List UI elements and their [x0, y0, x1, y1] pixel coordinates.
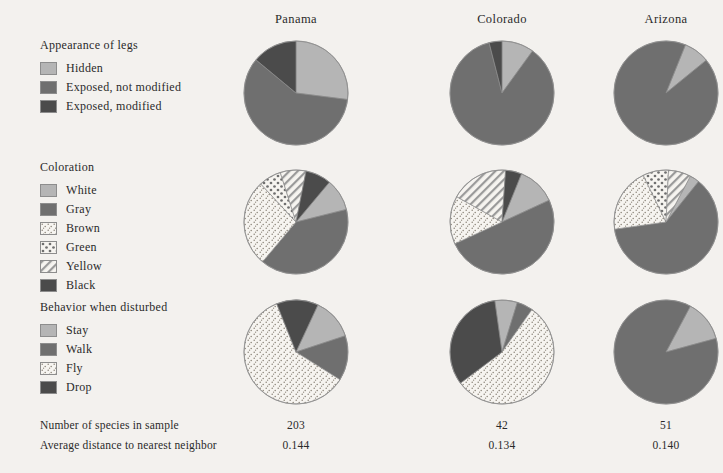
stat-value-panama: 0.144 [236, 439, 356, 451]
legend-item-green[interactable]: Green [40, 238, 102, 257]
legend-title: Appearance of legs [40, 38, 181, 53]
legend-item-label: White [66, 183, 97, 198]
stat-value-colorado: 0.134 [442, 439, 562, 451]
stat-row: Number of species in sample 203 42 51 [40, 419, 680, 439]
summary-stats: Number of species in sample 203 42 51 Av… [40, 419, 680, 459]
legend-item-brown[interactable]: Brown [40, 219, 102, 238]
legend-behavior-when-disturbed: Behavior when disturbedStayWalkFlyDrop [40, 300, 168, 397]
pie-chart-colorado-appearance-of-legs [447, 38, 557, 148]
legend-item-label: Exposed, not modified [66, 80, 181, 95]
stat-value-arizona: 51 [606, 419, 723, 431]
stat-label-avg-distance: Average distance to nearest neighbor [40, 439, 217, 451]
column-header-arizona: Arizona [586, 12, 723, 27]
legend-item-exposed-modified[interactable]: Exposed, modified [40, 97, 181, 116]
legend-item-label: Exposed, modified [66, 99, 162, 114]
legend-item-label: Black [66, 278, 96, 293]
pie-chart-panama-behavior-when-disturbed [241, 297, 351, 407]
pie-chart-colorado-coloration [447, 167, 557, 277]
legend-item-label: Green [66, 240, 97, 255]
legend-swatch-icon [40, 222, 57, 235]
legend-item-label: Hidden [66, 61, 103, 76]
pie-chart-arizona-appearance-of-legs [611, 38, 721, 148]
legend-item-black[interactable]: Black [40, 276, 102, 295]
legend-item-drop[interactable]: Drop [40, 378, 168, 397]
stat-value-colorado: 42 [442, 419, 562, 431]
legend-swatch-icon [40, 324, 57, 337]
column-header-colorado: Colorado [422, 12, 582, 27]
legend-item-fly[interactable]: Fly [40, 359, 168, 378]
legend-item-label: Stay [66, 323, 89, 338]
pie-chart-colorado-behavior-when-disturbed [447, 297, 557, 407]
pie-slice-hidden [296, 41, 348, 100]
legend-item-label: Drop [66, 380, 92, 395]
legend-swatch-icon [40, 184, 57, 197]
legend-swatch-icon [40, 241, 57, 254]
legend-swatch-icon [40, 81, 57, 94]
pie-chart-panama-appearance-of-legs [241, 38, 351, 148]
legend-appearance-of-legs: Appearance of legsHiddenExposed, not mod… [40, 38, 181, 116]
legend-coloration: ColorationWhiteGrayBrownGreenYellowBlack [40, 160, 102, 295]
legend-swatch-icon [40, 381, 57, 394]
legend-swatch-icon [40, 62, 57, 75]
stat-value-panama: 203 [236, 419, 356, 431]
legend-title: Coloration [40, 160, 102, 175]
legend-item-white[interactable]: White [40, 181, 102, 200]
stat-row: Average distance to nearest neighbor 0.1… [40, 439, 680, 459]
legend-item-yellow[interactable]: Yellow [40, 257, 102, 276]
legend-item-hidden[interactable]: Hidden [40, 59, 181, 78]
column-header-panama: Panama [216, 12, 376, 27]
pie-chart-panama-coloration [241, 167, 351, 277]
legend-item-gray[interactable]: Gray [40, 200, 102, 219]
legend-swatch-icon [40, 279, 57, 292]
legend-swatch-icon [40, 343, 57, 356]
legend-swatch-icon [40, 203, 57, 216]
pie-chart-arizona-behavior-when-disturbed [611, 297, 721, 407]
pie-chart-arizona-coloration [611, 167, 721, 277]
legend-item-walk[interactable]: Walk [40, 340, 168, 359]
legend-title: Behavior when disturbed [40, 300, 168, 315]
stat-value-arizona: 0.140 [606, 439, 723, 451]
legend-item-label: Yellow [66, 259, 102, 274]
legend-item-stay[interactable]: Stay [40, 321, 168, 340]
legend-swatch-icon [40, 100, 57, 113]
legend-swatch-icon [40, 362, 57, 375]
legend-item-label: Walk [66, 342, 92, 357]
legend-item-label: Fly [66, 361, 83, 376]
stat-label-species-count: Number of species in sample [40, 419, 179, 431]
legend-item-exposed-not-modified[interactable]: Exposed, not modified [40, 78, 181, 97]
legend-swatch-icon [40, 260, 57, 273]
legend-item-label: Gray [66, 202, 91, 217]
legend-item-label: Brown [66, 221, 100, 236]
